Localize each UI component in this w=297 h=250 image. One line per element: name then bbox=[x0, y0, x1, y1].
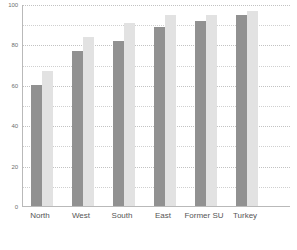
bar-west-series-2[interactable] bbox=[83, 37, 94, 206]
bar-group-south bbox=[113, 5, 137, 206]
bar-group-west bbox=[72, 5, 96, 206]
bar-former-su-series-2[interactable] bbox=[206, 15, 217, 206]
bar-south-series-2[interactable] bbox=[124, 23, 135, 206]
bar-group-former-su bbox=[195, 5, 219, 206]
y-tick-label-0: 0 bbox=[0, 204, 18, 210]
y-tick-label-60: 60 bbox=[0, 83, 18, 89]
y-tick-label-40: 40 bbox=[0, 123, 18, 129]
y-tick-label-80: 80 bbox=[0, 42, 18, 48]
bar-group-turkey bbox=[236, 5, 260, 206]
y-tick-label-100: 100 bbox=[0, 2, 18, 8]
y-tick-label-20: 20 bbox=[0, 164, 18, 170]
bar-east-series-2[interactable] bbox=[165, 15, 176, 206]
bar-group-north bbox=[31, 5, 55, 206]
bar-turkey-series-1[interactable] bbox=[236, 15, 247, 206]
bar-south-series-1[interactable] bbox=[113, 41, 124, 206]
bar-north-series-1[interactable] bbox=[31, 85, 42, 206]
bar-east-series-1[interactable] bbox=[154, 27, 165, 206]
bar-group-east bbox=[154, 5, 178, 206]
bar-chart: 100 80 60 40 20 0 bbox=[0, 0, 297, 250]
bar-north-series-2[interactable] bbox=[42, 71, 53, 206]
plot-area bbox=[22, 5, 290, 207]
bar-turkey-series-2[interactable] bbox=[247, 11, 258, 206]
bar-former-su-series-1[interactable] bbox=[195, 21, 206, 206]
x-tick-label-turkey: Turkey bbox=[217, 212, 273, 220]
bar-west-series-1[interactable] bbox=[72, 51, 83, 206]
